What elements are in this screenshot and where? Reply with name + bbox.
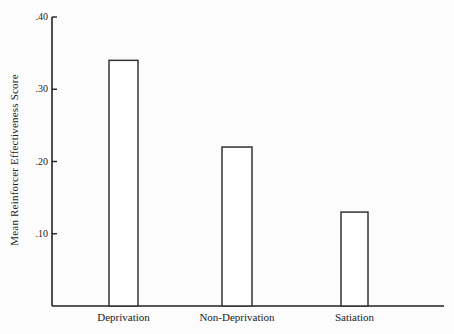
- y-tick-label: .10: [36, 228, 49, 239]
- x-tick-label: Deprivation: [97, 311, 150, 323]
- y-tick-label: .30: [36, 83, 49, 94]
- y-axis-label: Mean Reinforcer Effectiveness Score: [8, 74, 20, 245]
- chart-canvas: [0, 0, 454, 334]
- bar-satiation: [341, 212, 368, 306]
- x-tick-label: Satiation: [335, 311, 374, 323]
- x-tick-label: Non-Deprivation: [199, 311, 274, 323]
- bar-chart: Mean Reinforcer Effectiveness Score .10.…: [0, 0, 454, 334]
- bar-non-deprivation: [222, 147, 252, 306]
- bar-deprivation: [109, 60, 138, 306]
- y-tick-label: .20: [36, 155, 49, 166]
- y-tick-label: .40: [36, 11, 49, 22]
